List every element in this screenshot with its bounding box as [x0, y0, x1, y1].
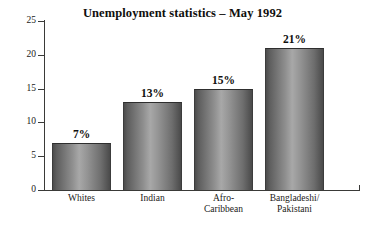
bar-value-label: 13% [123, 87, 182, 99]
y-tick-label: 25 [8, 16, 36, 26]
plot-area [45, 21, 360, 190]
bar-value-label: 21% [265, 33, 324, 45]
y-tick-label: 0 [8, 185, 36, 195]
y-tick-mark [38, 89, 44, 90]
y-tick-mark [38, 55, 44, 56]
y-tick-mark [38, 190, 44, 191]
bar-chart: Unemployment statistics – May 1992 05101… [0, 0, 365, 231]
y-tick-label: 20 [8, 50, 36, 60]
y-tick-label: 5 [8, 151, 36, 161]
category-label: Whites [46, 193, 117, 204]
category-label: Afro- Caribbean [188, 193, 259, 215]
x-axis-line [44, 190, 360, 191]
chart-title: Unemployment statistics – May 1992 [0, 6, 365, 21]
category-label: Indian [117, 193, 188, 204]
y-tick-mark [38, 156, 44, 157]
bar-value-label: 15% [194, 74, 253, 86]
bar-value-label: 7% [52, 128, 111, 140]
bar [52, 143, 111, 190]
y-tick-mark [38, 21, 44, 22]
y-tick-label: 10 [8, 117, 36, 127]
y-tick-label: 15 [8, 84, 36, 94]
bar [123, 102, 182, 190]
y-tick-mark [38, 122, 44, 123]
bar [194, 89, 253, 190]
category-label: Bangladeshi/ Pakistani [259, 193, 330, 215]
bar [265, 48, 324, 190]
